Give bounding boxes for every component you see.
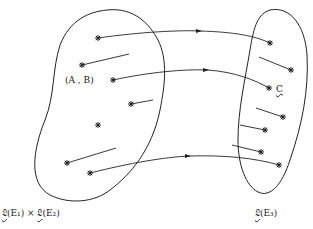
point-left (95, 35, 101, 41)
arrow-3 (90, 156, 279, 173)
set-left-label: 𝔏(E₁) × 𝔏(E₂) (2, 208, 60, 219)
set-right-label: 𝔏(E₃) (255, 208, 277, 219)
point-right (288, 67, 294, 73)
stub-right-3 (240, 125, 265, 130)
arrowhead-3 (185, 154, 191, 158)
point-right (266, 85, 272, 91)
point-right (276, 162, 282, 168)
point-left (64, 160, 70, 166)
point-left (128, 101, 134, 107)
mapping-diagram (0, 0, 313, 229)
element-label-c: C (276, 84, 283, 94)
arrowhead-1 (196, 29, 202, 33)
point-right (267, 40, 273, 46)
point-right (258, 149, 264, 155)
point-left (95, 122, 101, 128)
stub-left-2 (131, 100, 153, 104)
stub-right-4 (232, 145, 261, 152)
set-right-boundary (238, 9, 307, 193)
element-label-pair: (A , B) (65, 75, 94, 85)
point-left (79, 62, 85, 68)
point-right (280, 114, 286, 120)
arrow-1 (98, 31, 270, 43)
stub-left-3 (67, 148, 116, 163)
stub-right-1 (259, 57, 291, 70)
point-right (262, 127, 268, 133)
arrowhead-2 (203, 68, 209, 72)
stub-right-2 (256, 108, 283, 117)
stub-left-1 (82, 54, 129, 65)
point-left (110, 77, 116, 83)
point-left (87, 170, 93, 176)
